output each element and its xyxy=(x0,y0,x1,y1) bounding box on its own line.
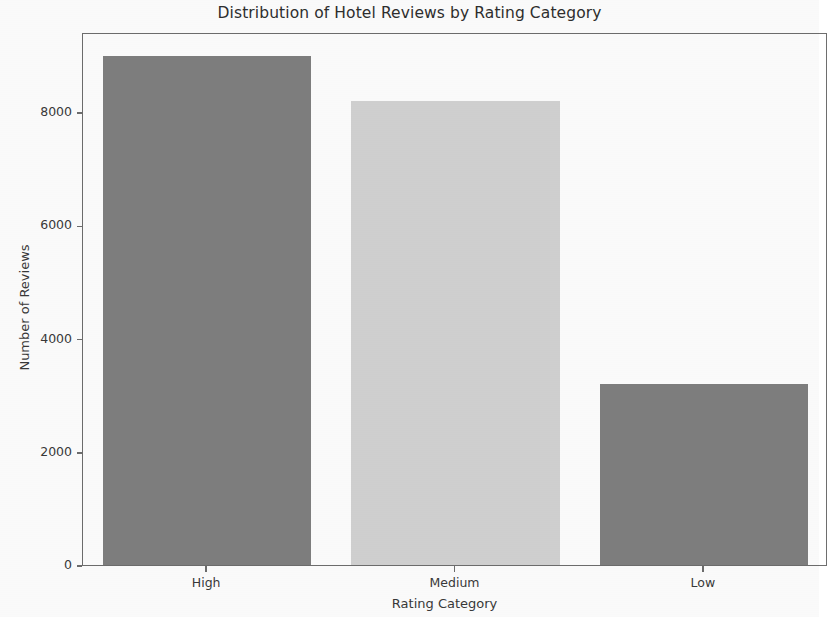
y-tick-label: 0 xyxy=(64,557,72,572)
x-tick-mark xyxy=(454,566,456,572)
plot-area xyxy=(82,33,827,566)
y-tick-label: 6000 xyxy=(40,217,72,232)
y-tick-label: 2000 xyxy=(40,444,72,459)
y-axis-label: Number of Reviews xyxy=(17,41,32,574)
y-tick-mark xyxy=(77,452,83,454)
bar-medium xyxy=(351,101,560,565)
bars-layer xyxy=(83,34,826,565)
y-tick-mark xyxy=(77,112,83,114)
x-tick-mark xyxy=(205,566,207,572)
y-tick-mark xyxy=(77,339,83,341)
y-tick-mark xyxy=(77,226,83,228)
y-tick-label: 4000 xyxy=(40,331,72,346)
bar-high xyxy=(103,56,312,566)
x-tick-label: Low xyxy=(613,575,793,590)
y-tick-mark xyxy=(77,565,83,567)
bar-low xyxy=(600,384,809,565)
x-tick-label: High xyxy=(116,575,296,590)
x-tick-mark xyxy=(702,566,704,572)
chart-title: Distribution of Hotel Reviews by Rating … xyxy=(0,4,819,22)
y-tick-label: 8000 xyxy=(40,104,72,119)
x-axis-label: Rating Category xyxy=(82,596,807,611)
x-tick-label: Medium xyxy=(365,575,545,590)
